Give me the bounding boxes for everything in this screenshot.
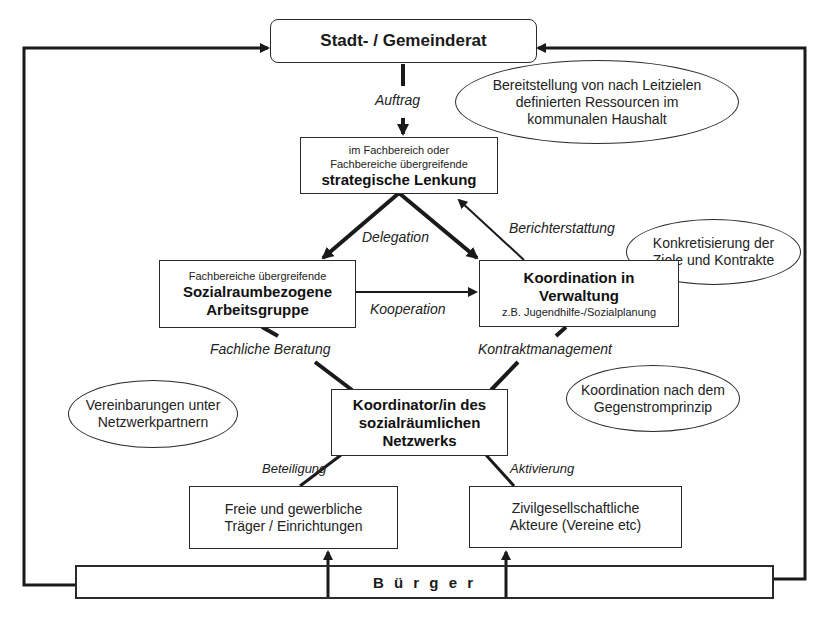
note-agreements: Vereinbarungen unter Netzwerkpartnern xyxy=(68,380,238,448)
node-coordinator-line3: Netzwerks xyxy=(382,432,456,450)
diagram-canvas: Stadt- / Gemeinderat Auftrag Bereitstell… xyxy=(0,0,839,620)
node-civil-society: Zivilgesellschaftliche Akteure (Vereine … xyxy=(469,486,682,548)
note-resources-line2: definierten Ressourcen im xyxy=(516,94,679,111)
node-civil-line2: Akteure (Vereine etc) xyxy=(510,517,642,534)
node-strategic-steering: im Fachbereich oder Fachbereiche übergre… xyxy=(300,137,498,194)
note-countercurrent-line2: Gegenstromprinzip xyxy=(594,399,712,416)
note-resources-line1: Bereitstellung von nach Leitzielen xyxy=(493,77,702,94)
node-citizens-title: B ü r g e r xyxy=(369,574,480,591)
note-agreements-line1: Vereinbarungen unter xyxy=(86,397,221,414)
node-coordinator-line2: sozialräumlichen xyxy=(359,414,481,432)
node-admin-title2: Verwaltung xyxy=(539,287,619,305)
node-workgroup-title1: Sozialraumbezogene xyxy=(183,283,332,301)
node-city-council-title: Stadt- / Gemeinderat xyxy=(320,31,486,51)
node-admin-subtitle: z.B. Jugendhilfe-/Sozialplanung xyxy=(502,305,656,319)
node-providers-line2: Träger / Einrichtungen xyxy=(225,518,363,535)
node-coordinator-line1: Koordinator/in des xyxy=(353,396,486,414)
node-city-council: Stadt- / Gemeinderat xyxy=(270,19,537,63)
node-workgroup-title2: Arbeitsgruppe xyxy=(206,301,309,319)
node-providers: Freie und gewerbliche Träger / Einrichtu… xyxy=(189,486,398,549)
node-civil-line1: Zivilgesellschaftliche xyxy=(512,500,640,517)
edge-label-fachliche-beratung: Fachliche Beratung xyxy=(210,341,331,357)
edge-label-aktivierung: Aktivierung xyxy=(510,461,574,476)
node-admin-title1: Koordination in xyxy=(524,269,635,287)
node-social-space-workgroup: Fachbereiche übergreifende Sozialraumbez… xyxy=(159,260,356,328)
note-countercurrent: Koordination nach dem Gegenstromprinzip xyxy=(566,365,740,432)
edge-label-berichterstattung: Berichterstattung xyxy=(509,220,615,236)
node-strategic-title: strategische Lenkung xyxy=(321,171,476,189)
node-strategic-line2: Fachbereiche übergreifende xyxy=(330,157,468,171)
node-strategic-line1: im Fachbereich oder xyxy=(349,143,449,157)
note-resources-line3: kommunalen Haushalt xyxy=(527,111,666,128)
edge-label-beteiligung: Beteiligung xyxy=(262,461,326,476)
note-resources: Bereitstellung von nach Leitzielen defin… xyxy=(455,60,739,144)
edge-label-auftrag: Auftrag xyxy=(375,92,420,108)
node-admin-coordination: Koordination in Verwaltung z.B. Jugendhi… xyxy=(479,260,679,327)
edge-label-kontraktmanagement: Kontraktmanagement xyxy=(478,341,612,357)
note-countercurrent-line1: Koordination nach dem xyxy=(581,382,725,399)
node-providers-line1: Freie und gewerbliche xyxy=(225,501,363,518)
node-network-coordinator: Koordinator/in des sozialräumlichen Netz… xyxy=(331,389,508,456)
note-contracts-line1: Konkretisierung der xyxy=(653,235,774,252)
edge-label-kooperation: Kooperation xyxy=(370,301,446,317)
note-agreements-line2: Netzwerkpartnern xyxy=(98,414,209,431)
edge-label-delegation: Delegation xyxy=(362,229,429,245)
node-citizens: B ü r g e r xyxy=(75,565,774,599)
node-workgroup-subtitle: Fachbereiche übergreifende xyxy=(189,269,327,283)
